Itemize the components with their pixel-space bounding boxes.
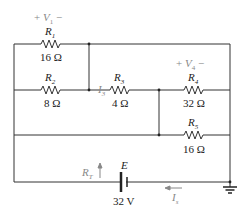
r1-label: R1 xyxy=(45,26,55,40)
resistor-r3-icon xyxy=(110,86,129,94)
i3-label: I3 xyxy=(98,84,105,98)
resistor-r2-icon xyxy=(41,86,60,94)
is-arrow-icon xyxy=(165,186,182,190)
resistor-r4-icon xyxy=(184,86,203,94)
r3-label: R3 xyxy=(114,72,124,86)
r4-label: R4 xyxy=(188,72,198,86)
r5-label: R5 xyxy=(188,117,198,131)
r5-value: 16 Ω xyxy=(183,144,205,155)
resistor-r1-icon xyxy=(41,40,60,48)
ground-icon xyxy=(223,182,237,193)
source-value: 32 V xyxy=(113,196,135,207)
r2-value: 8 Ω xyxy=(44,98,60,109)
is-label: Is xyxy=(172,192,178,206)
r2-label: R2 xyxy=(45,72,55,86)
r4-value: 32 Ω xyxy=(183,98,205,109)
r1-value: 16 Ω xyxy=(40,52,62,63)
resistor-r5-icon xyxy=(184,131,203,139)
r3-value: 4 Ω xyxy=(112,98,128,109)
rt-arrow-icon xyxy=(98,163,102,178)
source-label: E xyxy=(121,160,128,171)
circuit-diagram: + V1 − R1 16 Ω R2 8 Ω I3 R3 4 Ω + V4 − R… xyxy=(0,0,248,216)
rt-label: RT xyxy=(82,167,93,181)
